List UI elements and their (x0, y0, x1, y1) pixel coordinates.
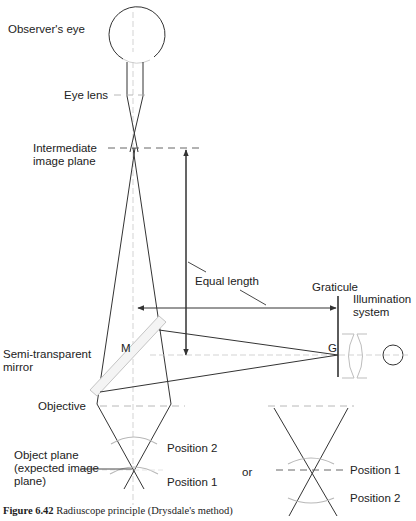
surface-position-2-left (111, 437, 157, 444)
label-right-position-2: Position 2 (350, 492, 401, 504)
main-rays (97, 148, 171, 404)
illumination-lens-icon (342, 334, 367, 378)
observer-eye-icon (109, 7, 165, 63)
label-object-plane-3: plane) (14, 475, 46, 487)
label-intermediate-2: image plane (33, 155, 96, 167)
figure-caption: Figure 6.42 Radiuscope principle (Drysda… (3, 505, 233, 517)
label-illumination-1: Illumination (353, 293, 411, 305)
object-rays-left (97, 404, 171, 489)
label-graticule: Graticule (312, 281, 358, 293)
label-left-position-1: Position 1 (167, 476, 218, 488)
label-observers-eye: Observer's eye (8, 23, 85, 35)
label-equal-length: Equal length (195, 275, 259, 287)
label-semi-1: Semi-transparent (3, 348, 92, 360)
label-or: or (242, 466, 252, 478)
equal-length-dimension (138, 150, 336, 355)
label-semi-2: mirror (3, 361, 33, 373)
label-object-plane-1: Object plane (14, 449, 79, 461)
alternative-diagram (268, 406, 354, 516)
label-eye-lens: Eye lens (64, 89, 108, 101)
graticule-rays (100, 330, 338, 392)
label-intermediate-1: Intermediate (33, 142, 97, 154)
label-g: G (328, 342, 337, 354)
eyepiece-rays (127, 62, 143, 152)
label-illumination-2: system (353, 306, 389, 318)
caption-text: Radiuscope principle (Drysdale's method) (54, 505, 234, 517)
label-left-position-2: Position 2 (167, 442, 218, 454)
caption-number: Figure 6.42 (3, 505, 54, 516)
label-right-position-1: Position 1 (350, 464, 401, 476)
label-object-plane-2: (expected image (14, 462, 99, 474)
label-objective: Objective (38, 400, 86, 412)
radiuscope-diagram: Observer's eye Eye lens Intermediate ima… (0, 0, 416, 521)
label-m: M (121, 342, 131, 354)
